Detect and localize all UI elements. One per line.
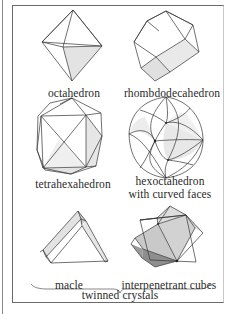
tetrahexahedron-illustration xyxy=(37,98,102,174)
label-hexoctahedron-subtitle: with curved faces xyxy=(124,188,216,201)
label-rhombdodecahedron: rhombdodecahedron xyxy=(118,87,226,100)
rhombdodecahedron-illustration xyxy=(134,11,199,81)
label-tetrahexahedron: tetrahexahedron xyxy=(28,178,118,191)
crystal-drawings xyxy=(0,0,228,314)
interpenetrant-cubes-illustration xyxy=(131,206,203,267)
macle-illustration xyxy=(40,211,108,263)
label-twinned-crystals: twinned crystals xyxy=(70,289,170,302)
label-octahedron: octahedron xyxy=(34,87,114,100)
label-hexoctahedron: hexoctahedron xyxy=(124,175,216,188)
hexoctahedron-illustration xyxy=(129,97,203,178)
octahedron-illustration xyxy=(42,10,102,81)
